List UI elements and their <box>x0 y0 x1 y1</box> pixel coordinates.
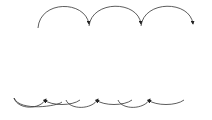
forward-prediction-arrows <box>38 6 193 28</box>
bidirectional-prediction-arrows <box>14 98 184 107</box>
gop-diagram <box>0 0 212 120</box>
